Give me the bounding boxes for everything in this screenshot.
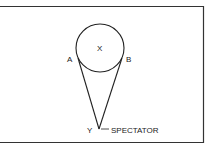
label-x: X [97, 44, 103, 53]
label-a: A [67, 55, 73, 64]
label-y: Y [87, 126, 93, 135]
label-spectator: SPECTATOR [111, 126, 159, 135]
spectator-diagram: X A B Y SPECTATOR [0, 0, 214, 147]
tangent-line-yb [99, 58, 122, 129]
label-b: B [126, 55, 131, 64]
